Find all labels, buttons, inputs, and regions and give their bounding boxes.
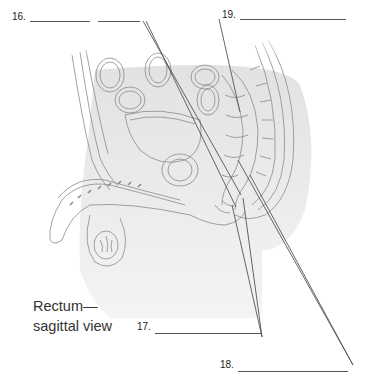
answer-blank-19[interactable] <box>240 19 346 20</box>
diagram-stage: 16. 19. Rectum— sagittal view 17. 18. <box>0 0 365 387</box>
answer-blank-16b[interactable] <box>98 21 140 22</box>
caption-line-1: Rectum— <box>33 296 112 316</box>
top-fade <box>60 30 320 58</box>
label-17-number: 17. <box>137 321 151 333</box>
answer-blank-18[interactable] <box>238 371 348 372</box>
answer-blank-17[interactable] <box>155 333 262 334</box>
caption-line-2: sagittal view <box>33 316 112 336</box>
figure-caption: Rectum— sagittal view <box>33 296 112 336</box>
label-16-number: 16. <box>12 11 26 23</box>
body-shadow <box>80 65 312 318</box>
answer-blank-16a[interactable] <box>30 21 90 22</box>
label-19-number: 19. <box>222 9 236 21</box>
label-18-number: 18. <box>220 359 234 371</box>
